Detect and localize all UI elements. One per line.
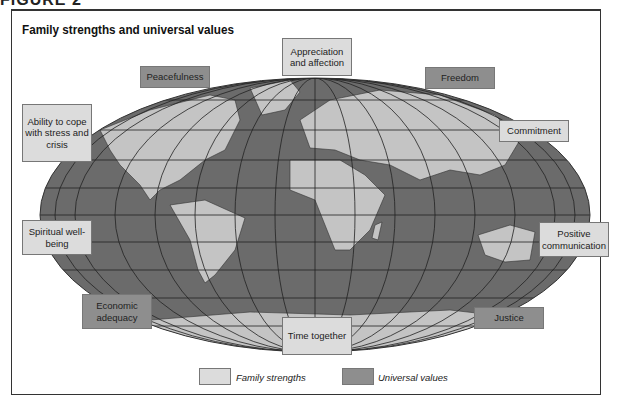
label-freedom: Freedom: [425, 67, 495, 89]
label-commitment: Commitment: [499, 120, 569, 142]
label-ability-to-cope: Ability to cope with stress and crisis: [22, 104, 92, 162]
label-peacefulness: Peacefulness: [140, 66, 210, 88]
label-economic-adequacy: Economic adequacy: [82, 294, 152, 329]
label-positive-communication: Positive communication: [539, 222, 609, 257]
legend-label-family-strengths: Family strengths: [236, 372, 306, 383]
label-justice: Justice: [474, 307, 544, 329]
label-appreciation-and-affection: Appreciation and affection: [282, 38, 352, 76]
legend-swatch-universal-values: [342, 368, 374, 385]
label-spiritual-well-being: Spiritual well-being: [22, 220, 92, 255]
legend-label-universal-values: Universal values: [378, 372, 448, 383]
legend-swatch-family-strengths: [199, 368, 231, 385]
label-time-together: Time together: [282, 317, 352, 355]
